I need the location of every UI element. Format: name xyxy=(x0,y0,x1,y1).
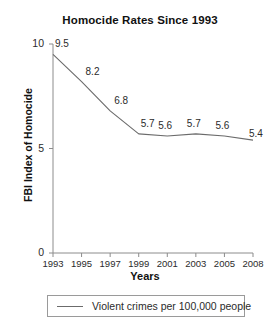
data-point-label: 5.4 xyxy=(249,128,263,139)
data-point-label: 5.7 xyxy=(187,118,201,129)
legend-line-swatch-icon xyxy=(57,306,83,307)
data-point-label: 6.8 xyxy=(114,95,128,106)
data-point-label: 5.7 xyxy=(141,118,155,129)
x-tick-label: 1999 xyxy=(125,258,153,269)
y-tick-label: 0 xyxy=(22,246,44,258)
y-tick-label: 10 xyxy=(22,37,44,49)
x-tick-label: 1995 xyxy=(68,258,96,269)
x-axis-label: Years xyxy=(40,270,250,282)
x-tick-label: 1993 xyxy=(39,258,67,269)
x-tick-label: 1997 xyxy=(96,258,124,269)
y-tick-label: 5 xyxy=(22,142,44,154)
chart-container: Homocide Rates Since 1993 FBI Index of H… xyxy=(0,0,280,326)
data-point-label: 8.2 xyxy=(86,66,100,77)
x-tick-label: 2003 xyxy=(182,258,210,269)
x-tick-label: 2005 xyxy=(210,258,238,269)
data-point-label: 5.6 xyxy=(158,120,172,131)
y-tick-marks xyxy=(49,44,53,253)
x-tick-label: 2008 xyxy=(239,258,267,269)
x-tick-label: 2001 xyxy=(153,258,181,269)
axis-lines xyxy=(53,44,253,253)
x-tick-marks xyxy=(53,253,253,257)
chart-legend: Violent crimes per 100,000 people xyxy=(47,295,245,317)
data-point-label: 9.5 xyxy=(55,38,69,49)
legend-label: Violent crimes per 100,000 people xyxy=(92,300,251,312)
data-point-label: 5.6 xyxy=(215,120,229,131)
